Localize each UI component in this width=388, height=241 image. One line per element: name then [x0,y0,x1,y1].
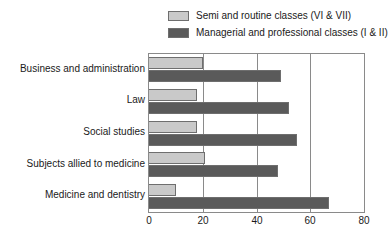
bar [149,152,205,164]
legend-label-managerial-professional: Managerial and professional classes (I &… [196,27,388,38]
bar [149,89,197,101]
legend-item-semi-routine: Semi and routine classes (VI & VII) [168,8,383,23]
y-axis-label: Business and administration [0,63,145,75]
bar [149,134,297,146]
x-axis-tick-label: 40 [251,215,262,227]
x-axis-tick-label: 20 [197,215,208,227]
y-axis-category-labels: Business and administrationLawSocial stu… [0,53,145,213]
y-axis-label: Subjects allied to medicine [0,158,145,170]
plot-area [148,53,365,213]
bar [149,57,203,69]
bar [149,70,281,82]
x-axis-tick-labels: 020406080 [148,215,365,231]
bar [149,102,289,114]
y-axis-label: Medicine and dentistry [0,189,145,201]
y-axis-label: Social studies [0,126,145,138]
bar [149,184,176,196]
x-axis-tick-label: 0 [146,215,152,227]
legend-swatch-icon-semi-routine [168,11,189,21]
bar [149,121,197,133]
x-axis-tick-label: 60 [304,215,315,227]
legend-item-managerial-professional: Managerial and professional classes (I &… [168,25,383,40]
legend-swatch-icon-managerial-professional [168,28,189,38]
gridline-60 [310,54,311,212]
x-axis-tick-label: 80 [358,215,369,227]
y-axis-label: Law [0,94,145,106]
chart-legend: Semi and routine classes (VI & VII) Mana… [168,8,383,42]
bar [149,197,329,209]
bar [149,165,278,177]
legend-label-semi-routine: Semi and routine classes (VI & VII) [196,10,351,21]
plot-inner [149,54,364,212]
